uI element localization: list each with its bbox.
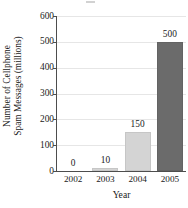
y-axis-tick-label: 300: [28, 89, 54, 98]
bar-2005: [157, 42, 183, 171]
x-axis-line: [56, 171, 186, 172]
y-axis-tick-mark: [53, 94, 57, 95]
bar-chart-figure: Number of Cellphone Spam Messages (milli…: [0, 0, 188, 208]
y-axis-title-line-2: Spam Messages (millions): [13, 0, 24, 172]
x-axis-tick-label-2004: 2004: [120, 174, 156, 184]
y-axis-title: Number of Cellphone Spam Messages (milli…: [2, 0, 25, 172]
bar-2004: [125, 132, 151, 171]
y-axis-title-container: Number of Cellphone Spam Messages (milli…: [0, 0, 30, 180]
x-axis-tick-label-2005: 2005: [152, 174, 188, 184]
y-axis-tick-label: 600: [28, 12, 54, 21]
y-axis-tick-label: 100: [28, 141, 54, 150]
y-axis-tick-mark: [53, 171, 57, 172]
bar-2003: [92, 168, 118, 171]
y-axis-tick-mark: [53, 119, 57, 120]
y-axis-title-line-1: Number of Cellphone: [2, 0, 13, 172]
y-axis-tick-mark: [53, 16, 57, 17]
y-axis-tick-label: 0: [28, 167, 54, 176]
bar-value-label-2005: 500: [150, 30, 188, 39]
y-axis-tick-labels: 0100200300400500600: [28, 0, 54, 208]
crop-artifact: [86, 1, 95, 3]
bar-value-label-2003: 10: [85, 156, 125, 165]
y-axis-tick-label: 500: [28, 37, 54, 46]
y-axis-tick-mark: [53, 68, 57, 69]
y-axis-tick-mark: [53, 42, 57, 43]
x-axis-tick-label-2002: 2002: [55, 174, 91, 184]
y-axis-tick-label: 200: [28, 115, 54, 124]
gridline: [57, 16, 186, 17]
x-axis-tick-label-2003: 2003: [87, 174, 123, 184]
y-axis-tick-mark: [53, 145, 57, 146]
plot-area: 010150500: [57, 16, 186, 171]
x-axis-title: Year: [57, 189, 186, 200]
y-axis-tick-label: 400: [28, 63, 54, 72]
x-axis-tick-labels: 2002200320042005: [57, 174, 186, 186]
bar-value-label-2004: 150: [118, 120, 158, 129]
